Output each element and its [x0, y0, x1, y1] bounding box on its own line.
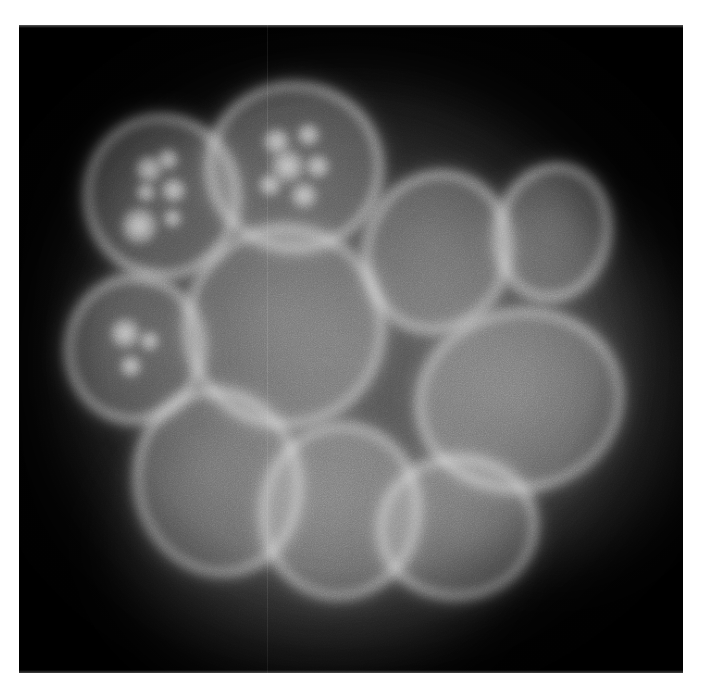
fluorescence-micrograph: [19, 25, 683, 673]
vertical-scanline: [267, 25, 268, 673]
page-root: Fluorescence micrograph of a cell nucleu…: [0, 0, 703, 688]
